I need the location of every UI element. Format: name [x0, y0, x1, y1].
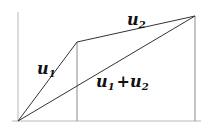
vector-u1 — [18, 42, 77, 121]
label-u1-plus-u2: u1+u2 — [96, 72, 149, 92]
vector-diagram: u1 u2 u1+u2 — [0, 0, 209, 129]
label-u2: u2 — [127, 10, 146, 30]
label-u1: u1 — [37, 59, 56, 79]
